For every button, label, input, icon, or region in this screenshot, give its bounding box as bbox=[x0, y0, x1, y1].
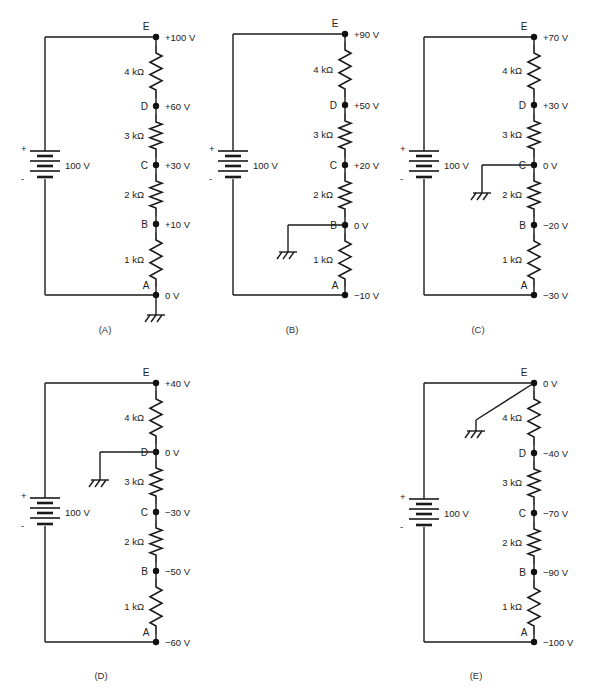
node-label: B bbox=[519, 220, 526, 231]
resistor-icon bbox=[528, 105, 540, 165]
resistor-value-label: 3 kΩ bbox=[502, 129, 522, 140]
battery-plus-sign: + bbox=[21, 490, 27, 501]
resistor-icon bbox=[339, 34, 351, 105]
resistor-icon bbox=[528, 225, 540, 295]
resistor-icon bbox=[150, 224, 162, 295]
resistor-value-label: 4 kΩ bbox=[502, 65, 522, 76]
node-voltage-label: −70 V bbox=[543, 508, 569, 519]
node-voltage-label: 0 V bbox=[354, 220, 369, 231]
resistor-value-label: 3 kΩ bbox=[124, 476, 144, 487]
resistor-value-label: 4 kΩ bbox=[502, 412, 522, 423]
node-voltage-label: +70 V bbox=[543, 32, 569, 43]
battery-icon bbox=[30, 498, 60, 524]
node-dot-icon bbox=[153, 103, 159, 109]
node-dot-icon bbox=[153, 34, 159, 40]
resistor-value-label: 2 kΩ bbox=[502, 189, 522, 200]
panel-caption: (E) bbox=[470, 670, 483, 681]
panel-caption: (C) bbox=[471, 324, 484, 335]
node-dot-icon bbox=[153, 509, 159, 515]
ground-icon bbox=[145, 295, 165, 322]
resistor-value-label: 2 kΩ bbox=[124, 189, 144, 200]
node-label: D bbox=[141, 101, 148, 112]
resistor-icon bbox=[528, 37, 540, 105]
node-voltage-label: +100 V bbox=[165, 32, 196, 43]
battery-minus-sign: - bbox=[400, 521, 403, 532]
node-dot-icon bbox=[531, 102, 537, 108]
resistor-value-label: 1 kΩ bbox=[124, 254, 144, 265]
voltage-divider-figure: +-100 V4 kΩ3 kΩ2 kΩ1 kΩE+100 VD+60 VC+30… bbox=[0, 0, 593, 688]
resistor-value-label: 4 kΩ bbox=[124, 66, 144, 77]
resistor-value-label: 2 kΩ bbox=[124, 536, 144, 547]
resistor-icon bbox=[339, 165, 351, 225]
resistor-value-label: 2 kΩ bbox=[313, 189, 333, 200]
node-voltage-label: −30 V bbox=[543, 290, 569, 301]
node-label: A bbox=[332, 280, 339, 291]
node-dot-icon bbox=[342, 162, 348, 168]
node-label: E bbox=[143, 367, 150, 378]
battery-icon bbox=[30, 151, 60, 177]
node-voltage-label: +10 V bbox=[165, 219, 191, 230]
battery-plus-sign: + bbox=[400, 491, 406, 502]
battery-minus-sign: - bbox=[400, 173, 403, 184]
node-label: C bbox=[519, 508, 526, 519]
circuit-panel-e: +-100 V4 kΩ3 kΩ2 kΩ1 kΩE0 VD−40 VC−70 VB… bbox=[400, 367, 574, 681]
node-voltage-label: 0 V bbox=[165, 447, 180, 458]
node-dot-icon bbox=[153, 221, 159, 227]
node-label: A bbox=[521, 280, 528, 291]
node-label: E bbox=[143, 21, 150, 32]
node-voltage-label: −40 V bbox=[543, 448, 569, 459]
node-dot-icon bbox=[531, 639, 537, 645]
battery-plus-sign: + bbox=[21, 143, 27, 154]
battery-minus-sign: - bbox=[21, 173, 24, 184]
battery-plus-sign: + bbox=[209, 143, 215, 154]
node-label: A bbox=[143, 627, 150, 638]
node-voltage-label: +90 V bbox=[354, 29, 380, 40]
resistor-icon bbox=[339, 225, 351, 295]
battery-minus-sign: - bbox=[21, 520, 24, 531]
battery-icon bbox=[409, 499, 439, 525]
node-dot-icon bbox=[531, 34, 537, 40]
resistor-value-label: 3 kΩ bbox=[502, 477, 522, 488]
circuit-panel-c: +-100 V4 kΩ3 kΩ2 kΩ1 kΩE+70 VD+30 VC0 VB… bbox=[400, 21, 569, 335]
node-dot-icon bbox=[342, 292, 348, 298]
node-label: A bbox=[521, 627, 528, 638]
node-dot-icon bbox=[153, 568, 159, 574]
node-voltage-label: +40 V bbox=[165, 378, 191, 389]
node-voltage-label: +60 V bbox=[165, 101, 191, 112]
node-voltage-label: −50 V bbox=[165, 566, 191, 577]
node-label: E bbox=[521, 21, 528, 32]
resistor-icon bbox=[150, 165, 162, 224]
node-voltage-label: +30 V bbox=[543, 100, 569, 111]
node-label: D bbox=[519, 100, 526, 111]
node-voltage-label: 0 V bbox=[543, 160, 558, 171]
battery-voltage-label: 100 V bbox=[444, 508, 469, 519]
node-voltage-label: −60 V bbox=[165, 637, 191, 648]
node-dot-icon bbox=[153, 162, 159, 168]
node-voltage-label: +20 V bbox=[354, 160, 380, 171]
node-dot-icon bbox=[531, 569, 537, 575]
circuit-panel-a: +-100 V4 kΩ3 kΩ2 kΩ1 kΩE+100 VD+60 VC+30… bbox=[21, 21, 196, 335]
panel-caption: (B) bbox=[286, 324, 299, 335]
node-dot-icon bbox=[153, 380, 159, 386]
node-label: B bbox=[141, 566, 148, 577]
node-dot-icon bbox=[531, 510, 537, 516]
resistor-icon bbox=[528, 572, 540, 642]
resistor-icon bbox=[150, 571, 162, 642]
resistor-icon bbox=[528, 453, 540, 513]
resistor-value-label: 1 kΩ bbox=[313, 254, 333, 265]
panel-caption: (D) bbox=[94, 670, 107, 681]
battery-icon bbox=[218, 151, 248, 177]
panel-caption: (A) bbox=[99, 324, 112, 335]
battery-voltage-label: 100 V bbox=[65, 507, 90, 518]
node-voltage-label: +30 V bbox=[165, 160, 191, 171]
resistor-value-label: 4 kΩ bbox=[124, 412, 144, 423]
ground-icon bbox=[465, 383, 534, 438]
battery-voltage-label: 100 V bbox=[253, 160, 278, 171]
node-dot-icon bbox=[531, 292, 537, 298]
battery-voltage-label: 100 V bbox=[444, 160, 469, 171]
node-label: D bbox=[330, 100, 337, 111]
node-voltage-label: −100 V bbox=[543, 637, 574, 648]
resistor-icon bbox=[339, 105, 351, 165]
node-voltage-label: −30 V bbox=[165, 507, 191, 518]
node-label: C bbox=[141, 160, 148, 171]
